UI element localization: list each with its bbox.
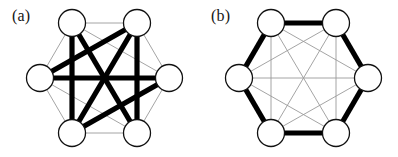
graph-node-bl[interactable] xyxy=(59,120,86,147)
graph-node-l[interactable] xyxy=(226,65,253,92)
graph-node-tr[interactable] xyxy=(124,10,151,37)
graph-node-tl[interactable] xyxy=(258,10,285,37)
graph-node-br[interactable] xyxy=(124,120,151,147)
graph-node-r[interactable] xyxy=(355,65,382,92)
panel-b: (b) xyxy=(199,0,398,157)
panel-b-label: (b) xyxy=(211,8,230,24)
panel-a: (a) xyxy=(0,0,199,157)
graph-node-l[interactable] xyxy=(27,65,54,92)
figure-root: (a) (b) xyxy=(0,0,398,157)
panel-a-label: (a) xyxy=(12,8,30,24)
graph-node-tl[interactable] xyxy=(59,10,86,37)
graph-node-tr[interactable] xyxy=(323,10,350,37)
graph-node-br[interactable] xyxy=(323,120,350,147)
graph-node-r[interactable] xyxy=(156,65,183,92)
graph-node-bl[interactable] xyxy=(258,120,285,147)
